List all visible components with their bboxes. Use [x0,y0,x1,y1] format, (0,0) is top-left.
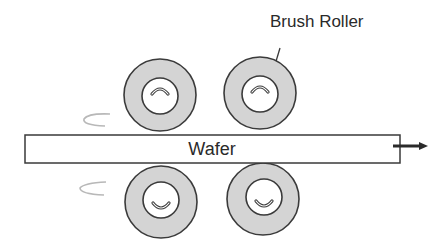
swirl-icon [84,114,110,126]
swirl-icon [80,182,106,195]
spray-swirl-bottom [80,182,106,195]
roller-top-right [224,57,296,129]
roller-core [246,179,282,215]
roller-core [143,182,179,218]
spray-swirl-top [84,114,110,126]
wafer-label: Wafer [188,139,235,159]
roller-core [242,76,278,112]
roller-bottom-right [227,163,299,235]
arrow-right-icon [419,142,428,150]
brush-roller-label: Brush Roller [270,12,364,31]
brush-roller-diagram: Brush Roller Wafer [0,0,445,249]
roller-core [142,78,178,114]
roller-bottom-left [125,166,197,238]
roller-top-left [124,59,196,131]
